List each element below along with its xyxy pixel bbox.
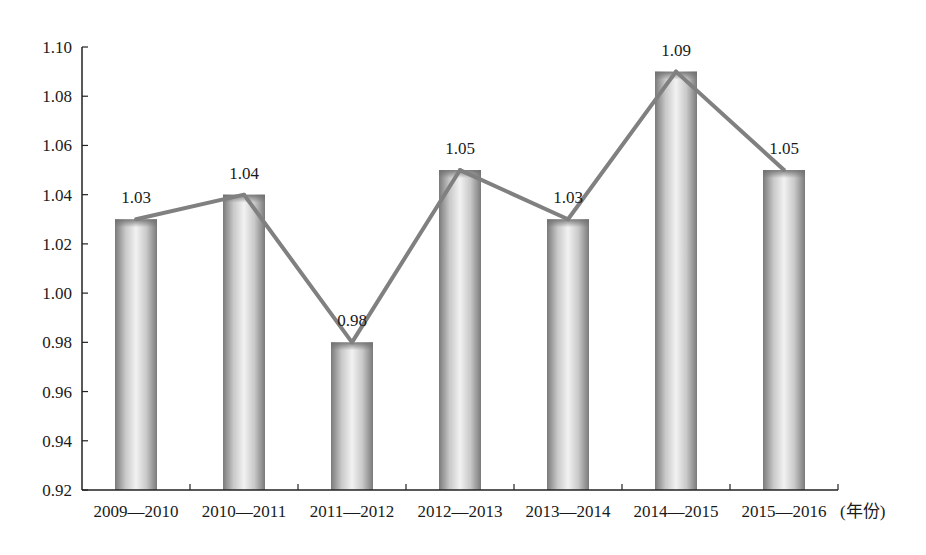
line-point bbox=[458, 168, 462, 172]
data-label: 1.09 bbox=[661, 41, 691, 60]
bar bbox=[439, 170, 481, 490]
y-tick-label: 0.98 bbox=[42, 333, 72, 352]
line-point bbox=[566, 217, 570, 221]
bar bbox=[115, 219, 157, 490]
line-point bbox=[134, 217, 138, 221]
x-tick-label: 2015—2016 bbox=[742, 502, 827, 521]
y-tick-label: 1.10 bbox=[42, 38, 72, 57]
y-tick-label: 0.92 bbox=[42, 481, 72, 500]
bars-layer bbox=[115, 72, 805, 490]
line-point bbox=[350, 340, 354, 344]
bar bbox=[223, 195, 265, 490]
y-tick-label: 0.94 bbox=[42, 432, 72, 451]
x-tick-label: 2014—2015 bbox=[634, 502, 719, 521]
line-point bbox=[782, 168, 786, 172]
data-label: 1.03 bbox=[553, 188, 583, 207]
y-tick-label: 0.96 bbox=[42, 383, 72, 402]
bar bbox=[763, 170, 805, 490]
data-label: 1.05 bbox=[769, 139, 799, 158]
line-point bbox=[674, 70, 678, 74]
data-label: 0.98 bbox=[337, 311, 367, 330]
x-axis-unit-label: (年份) bbox=[840, 502, 885, 521]
bar bbox=[655, 72, 697, 490]
data-label: 1.05 bbox=[445, 139, 475, 158]
data-label: 1.04 bbox=[229, 164, 259, 183]
x-tick-label: 2009—2010 bbox=[94, 502, 179, 521]
line-point bbox=[242, 193, 246, 197]
y-tick-label: 1.02 bbox=[42, 235, 72, 254]
x-tick-label: 2012—2013 bbox=[418, 502, 503, 521]
bar bbox=[331, 342, 373, 490]
bar bbox=[547, 219, 589, 490]
x-tick-label: 2011—2012 bbox=[310, 502, 394, 521]
x-tick-label: 2010—2011 bbox=[202, 502, 286, 521]
y-tick-label: 1.08 bbox=[42, 87, 72, 106]
chart: 0.920.940.960.981.001.021.041.061.081.10… bbox=[0, 0, 926, 555]
y-tick-label: 1.06 bbox=[42, 136, 72, 155]
x-tick-label: 2013—2014 bbox=[526, 502, 612, 521]
data-label: 1.03 bbox=[121, 188, 151, 207]
y-tick-label: 1.04 bbox=[42, 186, 72, 205]
y-tick-label: 1.00 bbox=[42, 284, 72, 303]
